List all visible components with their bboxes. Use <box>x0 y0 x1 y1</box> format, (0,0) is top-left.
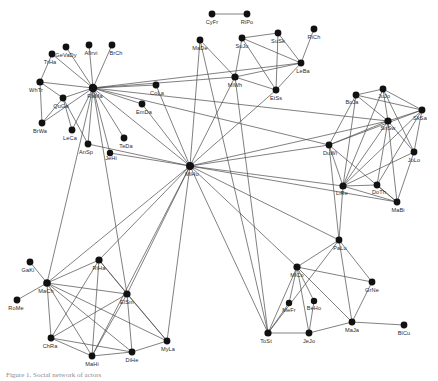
graph-node[interactable] <box>63 44 70 51</box>
graph-node[interactable] <box>139 101 146 108</box>
graph-node[interactable] <box>244 11 251 18</box>
graph-edge <box>343 185 377 186</box>
graph-node[interactable] <box>186 162 194 170</box>
graph-edge <box>190 166 339 240</box>
graph-edge <box>110 153 190 166</box>
graph-node-label: DiHe <box>126 357 139 363</box>
graph-node[interactable] <box>69 127 76 134</box>
graph-node-label: RiHa <box>93 265 107 271</box>
graph-node[interactable] <box>89 353 96 360</box>
graph-edge <box>92 352 132 356</box>
graph-edge <box>352 322 404 325</box>
graph-edge <box>47 260 99 283</box>
graph-node-label: CyFr <box>206 19 219 25</box>
graph-node-label: BrCh <box>109 50 122 56</box>
graph-node[interactable] <box>273 87 280 94</box>
graph-node[interactable] <box>60 95 67 102</box>
graph-node-label: RoMe <box>8 305 23 311</box>
graph-node[interactable] <box>27 259 34 266</box>
graph-node[interactable] <box>380 86 387 93</box>
graph-node[interactable] <box>43 279 51 287</box>
graph-edge <box>190 40 200 166</box>
graph-node[interactable] <box>394 199 401 206</box>
graph-node-label: BlCu <box>398 330 411 336</box>
graph-node[interactable] <box>89 84 97 92</box>
graph-node-label: DoTh <box>372 189 386 195</box>
graph-node-label: MaDe <box>192 45 207 51</box>
graph-node[interactable] <box>349 319 356 326</box>
graph-node[interactable] <box>123 290 130 297</box>
graph-node-label: MiHu <box>185 171 198 177</box>
graph-node-label: PaLu <box>333 245 346 251</box>
graph-node-label: ElSm <box>120 299 134 305</box>
graph-node[interactable] <box>374 182 381 189</box>
graph-node-label: EmDa <box>136 109 153 115</box>
graph-node-label: QuGa <box>53 103 69 109</box>
graph-edge <box>51 338 132 352</box>
graph-node-label: RiPo <box>241 19 254 25</box>
graph-edge <box>47 166 190 283</box>
graph-node[interactable] <box>293 263 300 270</box>
graph-node[interactable] <box>209 11 216 18</box>
graph-node[interactable] <box>336 237 343 244</box>
graph-node[interactable] <box>401 322 408 329</box>
graph-node-label: SkSa <box>413 115 428 121</box>
graph-node[interactable] <box>129 349 136 356</box>
graph-node[interactable] <box>14 297 21 304</box>
graph-node[interactable] <box>109 42 116 49</box>
graph-node[interactable] <box>86 42 93 49</box>
graph-node-label: AlIrvi <box>84 50 97 56</box>
graph-node-label: BrWa <box>33 128 48 134</box>
graph-node-label: EtSs <box>270 95 282 101</box>
graph-edge <box>190 121 388 166</box>
graph-node-label: JeHi <box>105 155 117 161</box>
graph-node[interactable] <box>197 37 204 44</box>
graph-node[interactable] <box>339 182 346 189</box>
graph-node-label: GeVaDy <box>55 52 76 58</box>
graph-edge <box>88 144 190 166</box>
graph-node-label: TeDa <box>119 143 133 149</box>
graph-node[interactable] <box>39 120 46 127</box>
graph-node-label: MyLa <box>161 346 176 352</box>
graph-node[interactable] <box>353 92 360 99</box>
graph-node[interactable] <box>306 330 313 337</box>
graph-node[interactable] <box>384 117 391 124</box>
graph-node-label: SuSk <box>271 38 285 44</box>
graph-edge <box>343 95 356 186</box>
graph-node[interactable] <box>369 279 376 286</box>
graph-node[interactable] <box>311 26 318 33</box>
graph-node-label: ChRa <box>43 343 58 349</box>
graph-node[interactable] <box>311 298 317 304</box>
graph-node-label: LiRe <box>336 190 348 196</box>
label-layer: GeVaDyAlIrviBrChTrHaWhTrQuGaBrWaRaMaLeCa… <box>8 19 427 367</box>
graph-edge <box>339 240 352 322</box>
graph-node-label: TrHa <box>44 59 57 65</box>
graph-node-label: RiCh <box>308 34 321 40</box>
graph-node-label: DuWi <box>323 150 337 156</box>
graph-node-label: RaMa <box>87 93 103 99</box>
graph-node[interactable] <box>121 135 128 142</box>
graph-node[interactable] <box>153 82 160 89</box>
graph-node-label: GaKi <box>22 267 35 273</box>
graph-node-label: JeJo <box>303 338 315 344</box>
graph-node-label: LeCa <box>63 135 78 141</box>
graph-node[interactable] <box>231 73 238 80</box>
graph-node[interactable] <box>419 107 426 114</box>
graph-node[interactable] <box>48 335 55 342</box>
graph-node[interactable] <box>85 141 92 148</box>
graph-node[interactable] <box>298 60 305 67</box>
graph-node-label: MaBi <box>391 207 404 213</box>
graph-node[interactable] <box>164 338 171 345</box>
graph-node[interactable] <box>95 256 102 263</box>
graph-edge <box>268 240 339 333</box>
graph-node[interactable] <box>286 300 292 306</box>
graph-node[interactable] <box>411 149 418 156</box>
graph-node[interactable] <box>264 329 271 336</box>
graph-edge <box>52 54 93 88</box>
graph-edge <box>190 90 276 166</box>
graph-edge <box>190 166 397 202</box>
graph-node[interactable] <box>36 78 43 85</box>
graph-node[interactable] <box>275 30 282 37</box>
graph-node[interactable] <box>239 35 246 42</box>
graph-node[interactable] <box>326 142 333 149</box>
